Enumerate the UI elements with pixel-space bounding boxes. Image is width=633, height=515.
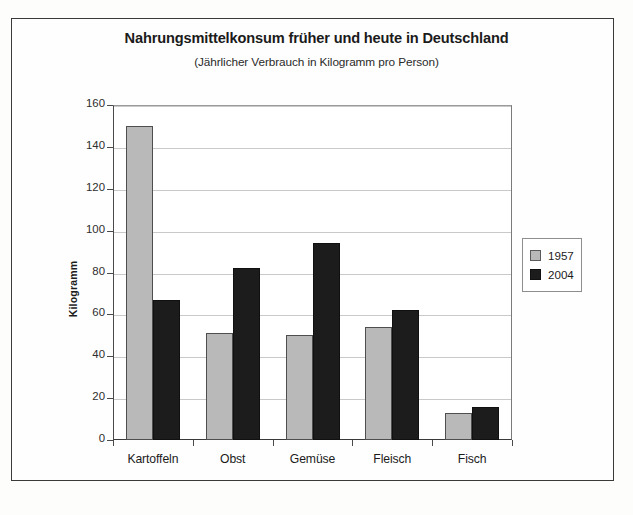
x-axis-category-label: Obst [220,452,245,466]
gray-swatch-icon [530,250,541,261]
x-axis-category-label: Kartoffeln [127,452,178,466]
bar-gemüse-1957 [286,335,313,440]
legend-item-2004[interactable]: 2004 [530,265,573,284]
x-axis-tick-mark [352,440,353,446]
x-axis-tick-mark [273,440,274,446]
x-axis-category-label: Fleisch [373,452,411,466]
x-axis-tick-mark [193,440,194,446]
y-axis-tick-label: 160 [63,97,105,109]
gridline [114,232,511,233]
y-axis-tick-mark [107,398,113,399]
legend-item-1957[interactable]: 1957 [530,246,573,265]
chart-page: Nahrungsmittelkonsum früher und heute in… [0,0,633,515]
y-axis-tick-mark [107,314,113,315]
y-axis-tick-mark [107,273,113,274]
x-axis-tick-mark [512,440,513,446]
gridline [114,148,511,149]
x-axis-category-label: Gemüse [290,452,335,466]
y-axis-tick-mark [107,189,113,190]
bar-fleisch-1957 [365,327,392,440]
bar-obst-2004 [233,268,260,440]
y-axis-tick-mark [107,356,113,357]
y-axis-tick-mark [107,105,113,106]
bar-fisch-1957 [445,413,472,440]
gridline [114,190,511,191]
y-axis-tick-label: 80 [63,265,105,277]
bar-obst-1957 [206,333,233,440]
chart-subtitle: (Jährlicher Verbrauch in Kilogramm pro P… [0,55,633,69]
y-axis-tick-mark [107,147,113,148]
y-axis-tick-label: 100 [63,223,105,235]
black-swatch-icon [530,269,541,280]
y-axis-title: Kilogramm [56,230,74,350]
bar-kartoffeln-2004 [153,300,180,440]
chart-title: Nahrungsmittelkonsum früher und heute in… [0,30,633,46]
bar-fleisch-2004 [392,310,419,440]
legend-item-label: 1957 [548,249,574,262]
y-axis-tick-label: 120 [63,181,105,193]
legend-item-label: 2004 [548,268,574,281]
y-axis-tick-label: 140 [63,139,105,151]
y-axis-tick-label: 20 [63,390,105,402]
chart-legend: 19572004 [522,238,582,292]
x-axis-tick-mark [432,440,433,446]
y-axis-tick-label: 40 [63,348,105,360]
x-axis-tick-mark [113,440,114,446]
gridline [114,106,511,107]
y-axis-tick-label: 60 [63,306,105,318]
y-axis-tick-label: 0 [63,432,105,444]
bar-fisch-2004 [472,407,499,441]
x-axis-category-label: Fisch [458,452,487,466]
bar-kartoffeln-1957 [126,126,153,440]
y-axis-tick-mark [107,231,113,232]
bar-gemüse-2004 [313,243,340,440]
